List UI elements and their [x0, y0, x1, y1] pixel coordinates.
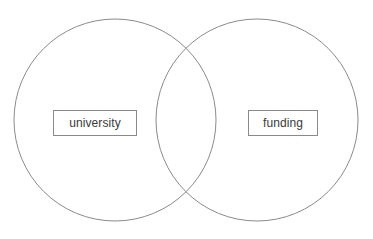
venn-label-text-university: university	[69, 117, 121, 129]
venn-label-text-funding: funding	[263, 117, 303, 129]
venn-diagram-canvas: university funding	[0, 0, 373, 239]
venn-label-box-funding: funding	[248, 110, 318, 136]
venn-label-box-university: university	[53, 110, 137, 136]
